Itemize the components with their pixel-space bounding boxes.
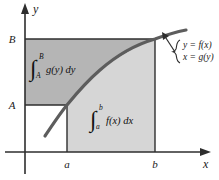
x-tick-label-b: b [152,158,158,170]
x-axis-label: x [202,157,209,171]
legend-brace-icon [173,40,180,63]
integral-lower-limit-f: a [96,122,100,131]
legend-equation-y: y = f(x) [182,40,212,51]
y-axis-label: y [32,2,39,16]
figure-canvas: y x B A a b ∫ B A g(y) dy ∫ b a f(x) dx … [0,0,219,180]
integral-lower-limit-g: A [35,71,41,80]
y-tick-label-B: B [9,33,16,45]
curve-legend: y = f(x) x = g(y) [162,32,214,63]
integral-integrand-g: g(y) dy [46,64,76,76]
integral-upper-limit-f: b [99,103,103,112]
integral-integrand-f: f(x) dx [106,115,133,127]
y-axis-arrow [21,3,29,14]
math-figure: y x B A a b ∫ B A g(y) dy ∫ b a f(x) dx … [0,0,219,180]
y-tick-label-A: A [8,99,16,111]
x-tick-label-a: a [64,158,70,170]
legend-equation-x: x = g(y) [182,52,214,63]
integral-upper-limit-g: B [39,52,44,61]
x-axis-arrow [200,148,211,156]
